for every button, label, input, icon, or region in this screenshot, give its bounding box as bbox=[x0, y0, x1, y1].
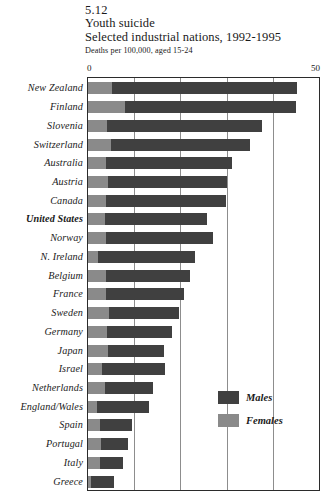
bar-row bbox=[88, 139, 250, 151]
bar-row bbox=[88, 419, 132, 431]
category-label: Finland bbox=[0, 101, 83, 113]
bar-row bbox=[88, 401, 149, 413]
category-label: Italy bbox=[0, 457, 83, 469]
bar-segment-females bbox=[88, 251, 98, 263]
category-label: Spain bbox=[0, 419, 83, 431]
figure-youth-suicide: 5.12 Youth suicide Selected industrial n… bbox=[0, 0, 330, 496]
bar-segment-males bbox=[105, 213, 207, 225]
bar-segment-females bbox=[88, 401, 97, 413]
bar-row bbox=[88, 82, 297, 94]
bar-row bbox=[88, 288, 184, 300]
category-label: England/Wales bbox=[0, 401, 83, 413]
bar-row bbox=[88, 120, 262, 132]
bar-rows bbox=[88, 78, 319, 490]
bar-row bbox=[88, 157, 232, 169]
category-label: Israel bbox=[0, 363, 83, 375]
bar-segment-females bbox=[88, 120, 107, 132]
bar-row bbox=[88, 476, 114, 488]
bar-row bbox=[88, 307, 179, 319]
bar-segment-females bbox=[88, 345, 108, 357]
bar-segment-males bbox=[97, 401, 148, 413]
legend-label-males: Males bbox=[246, 392, 272, 403]
bar-segment-females bbox=[88, 195, 106, 207]
bar-segment-females bbox=[88, 382, 105, 394]
bar-row bbox=[88, 213, 207, 225]
bar-segment-males bbox=[107, 326, 172, 338]
bar-segment-females bbox=[88, 157, 106, 169]
bar-row bbox=[88, 270, 190, 282]
bar-row bbox=[88, 345, 164, 357]
bar-segment-females bbox=[88, 82, 112, 94]
bar-segment-males bbox=[106, 288, 184, 300]
category-label: Slovenia bbox=[0, 120, 83, 132]
bar-segment-females bbox=[88, 457, 100, 469]
bar-row bbox=[88, 232, 213, 244]
bar-segment-males bbox=[100, 419, 132, 431]
legend-label-females: Females bbox=[246, 415, 283, 426]
category-label: Germany bbox=[0, 326, 83, 338]
bar-row bbox=[88, 101, 296, 113]
bar-segment-males bbox=[98, 251, 195, 263]
figure-header: 5.12 Youth suicide Selected industrial n… bbox=[85, 4, 330, 56]
x-axis-max-label: 50 bbox=[0, 63, 320, 74]
category-label: Greece bbox=[0, 476, 83, 488]
bar-segment-males bbox=[107, 120, 262, 132]
bar-segment-males bbox=[106, 157, 231, 169]
category-label: France bbox=[0, 288, 83, 300]
figure-title: Youth suicide bbox=[85, 17, 330, 31]
category-label: Norway bbox=[0, 232, 83, 244]
bar-row bbox=[88, 176, 227, 188]
bar-segment-males bbox=[91, 476, 114, 488]
bar-segment-males bbox=[101, 438, 128, 450]
bar-segment-males bbox=[106, 270, 191, 282]
category-label: Australia bbox=[0, 157, 83, 169]
legend-item-females: Females bbox=[218, 414, 283, 427]
bar-segment-males bbox=[105, 382, 153, 394]
legend-swatch-males bbox=[218, 391, 239, 404]
bar-segment-females bbox=[88, 270, 106, 282]
category-label: United States bbox=[0, 213, 83, 225]
bar-segment-females bbox=[88, 101, 125, 113]
bar-segment-males bbox=[112, 82, 297, 94]
category-label: New Zealand bbox=[0, 82, 83, 94]
figure-units-note: Deaths per 100,000, aged 15-24 bbox=[85, 45, 330, 56]
legend-item-males: Males bbox=[218, 391, 272, 404]
category-label: Netherlands bbox=[0, 382, 83, 394]
bar-segment-females bbox=[88, 176, 108, 188]
bar-segment-females bbox=[88, 363, 102, 375]
bar-row bbox=[88, 326, 172, 338]
bar-segment-females bbox=[88, 326, 107, 338]
category-label: Switzerland bbox=[0, 139, 83, 151]
bar-segment-females bbox=[88, 307, 109, 319]
category-label: N. Ireland bbox=[0, 251, 83, 263]
bar-segment-males bbox=[109, 307, 179, 319]
bar-segment-females bbox=[88, 139, 111, 151]
bar-segment-males bbox=[111, 139, 250, 151]
bar-segment-males bbox=[108, 345, 164, 357]
bar-segment-females bbox=[88, 213, 105, 225]
bar-segment-females bbox=[88, 419, 100, 431]
figure-subtitle: Selected industrial nations, 1992-1995 bbox=[85, 31, 330, 45]
bar-row bbox=[88, 438, 128, 450]
plot-area: Males Females bbox=[87, 77, 320, 491]
bar-segment-males bbox=[106, 232, 212, 244]
category-label: Canada bbox=[0, 195, 83, 207]
bar-segment-males bbox=[100, 457, 123, 469]
bar-segment-females bbox=[88, 438, 101, 450]
category-label: Portugal bbox=[0, 438, 83, 450]
bar-segment-males bbox=[102, 363, 165, 375]
bar-row bbox=[88, 457, 123, 469]
category-label: Belgium bbox=[0, 270, 83, 282]
bar-row bbox=[88, 363, 165, 375]
bar-segment-females bbox=[88, 232, 106, 244]
legend-swatch-females bbox=[218, 414, 239, 427]
category-label: Austria bbox=[0, 176, 83, 188]
bar-segment-males bbox=[108, 176, 227, 188]
bar-row bbox=[88, 382, 153, 394]
category-label: Japan bbox=[0, 345, 83, 357]
bar-segment-males bbox=[125, 101, 296, 113]
bar-segment-females bbox=[88, 288, 106, 300]
category-label: Sweden bbox=[0, 307, 83, 319]
bar-row bbox=[88, 195, 226, 207]
bar-row bbox=[88, 251, 195, 263]
